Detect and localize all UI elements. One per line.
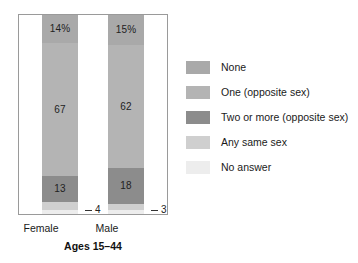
bar-segment-female-no-answer: [42, 210, 78, 214]
legend: None One (opposite sex) Two or more (opp…: [186, 55, 356, 180]
bar-segment-male-one: 62: [108, 45, 144, 168]
bar-segment-label: 62: [120, 102, 131, 112]
leader-line-icon: [151, 210, 158, 211]
legend-swatch-icon: [186, 136, 210, 149]
bar-segment-label: 67: [54, 105, 65, 115]
legend-swatch-icon: [186, 161, 210, 174]
leader-line-icon: [85, 210, 92, 211]
bar-segment-male-none: 15%: [108, 15, 144, 45]
legend-swatch-icon: [186, 111, 210, 124]
legend-label: One (opposite sex): [221, 87, 310, 98]
legend-item-one-opposite-sex: One (opposite sex): [186, 80, 356, 105]
bar-segment-female-one: 67: [42, 43, 78, 176]
stacked-bar-female: 14% 67 13: [42, 15, 78, 214]
legend-label: No answer: [221, 162, 271, 173]
callout-label: 3: [161, 205, 167, 215]
bar-segment-label: 14%: [50, 24, 70, 34]
callout-female-any-same-sex: 4: [85, 205, 101, 215]
legend-item-no-answer: No answer: [186, 155, 356, 180]
chart-caption: Ages 15–44: [18, 241, 168, 252]
bar-segment-label: 13: [54, 184, 65, 194]
legend-label: None: [221, 62, 246, 73]
axis-label-male: Male: [77, 223, 137, 234]
bar-segment-label: 15%: [116, 25, 136, 35]
legend-label: Two or more (opposite sex): [221, 112, 348, 123]
bar-segment-female-none: 14%: [42, 15, 78, 43]
legend-swatch-icon: [186, 61, 210, 74]
bar-segment-label: 18: [120, 181, 131, 191]
legend-item-two-or-more-opposite-sex: Two or more (opposite sex): [186, 105, 356, 130]
bar-segment-male-two-or-more: 18: [108, 168, 144, 204]
callout-male-any-same-sex: 3: [151, 205, 167, 215]
plot-area: 14% 67 13 15% 62 18: [18, 14, 168, 215]
axis-label-female: Female: [11, 223, 71, 234]
legend-item-any-same-sex: Any same sex: [186, 130, 356, 155]
legend-label: Any same sex: [221, 137, 287, 148]
legend-swatch-icon: [186, 86, 210, 99]
stacked-bar-male: 15% 62 18: [108, 15, 144, 214]
bar-segment-female-two-or-more: 13: [42, 176, 78, 202]
legend-item-none: None: [186, 55, 356, 80]
bar-segment-male-no-answer: [108, 210, 144, 214]
chart-figure: 14% 67 13 15% 62 18: [0, 0, 358, 263]
callout-label: 4: [95, 205, 101, 215]
bar-segment-female-any-same-sex: [42, 202, 78, 210]
